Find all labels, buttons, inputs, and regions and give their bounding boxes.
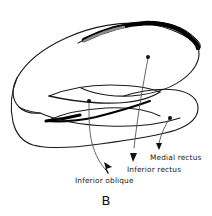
dot-medial-rectus: [168, 116, 172, 120]
superior-muscle-inner-edge: [81, 45, 199, 96]
dot-inferior-rectus: [146, 55, 150, 59]
label-inferior-oblique: Inferior oblique: [75, 177, 134, 184]
superior-muscle-outline: [13, 23, 197, 113]
arrowhead-medial-rectus: [156, 143, 162, 150]
arrowhead-inferior-rectus: [130, 153, 137, 162]
label-inferior-rectus: Inferior rectus: [127, 166, 181, 173]
leader-curve-inferior-oblique: [92, 143, 106, 170]
leader-line-inferior-oblique: [89, 102, 92, 143]
figure-caption: B: [0, 194, 212, 207]
dot-inferior-oblique: [87, 99, 91, 103]
inferior-oblique-lower-edge: [49, 92, 160, 103]
anatomical-figure: Inferior oblique Inferior rectus Medial …: [0, 0, 212, 216]
label-medial-rectus: Medial rectus: [150, 154, 201, 161]
arrowhead-inferior-oblique: [104, 162, 112, 173]
